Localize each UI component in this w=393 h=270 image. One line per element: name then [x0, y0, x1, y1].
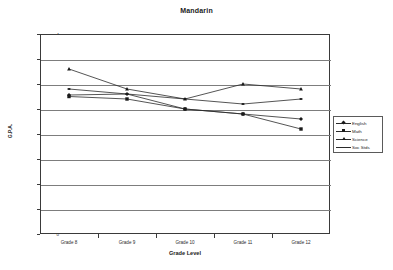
legend-marker-line-icon — [336, 143, 351, 151]
x-axis-tick-mark — [214, 234, 215, 238]
data-point — [299, 117, 303, 121]
data-point — [242, 103, 245, 105]
chart-title: Mandarin — [0, 7, 393, 14]
data-point — [299, 127, 302, 130]
legend-label: Science — [351, 137, 368, 142]
legend-label: Soc Stds — [351, 145, 370, 150]
y-axis-title: G.P.A. — [7, 111, 13, 151]
x-axis-tick-label: Grade 11 — [213, 240, 273, 245]
data-point — [67, 95, 70, 98]
x-axis-tick-label: Grade 9 — [97, 240, 157, 245]
data-point — [300, 98, 303, 100]
legend-marker-triangle-icon — [336, 135, 351, 143]
legend-item-soc-stds[interactable]: Soc Stds — [336, 143, 380, 151]
y-axis-tick-mark — [37, 234, 40, 235]
legend-item-math[interactable]: Math — [336, 127, 380, 135]
data-point — [67, 67, 71, 70]
series-soc-stds — [68, 88, 303, 105]
data-point — [241, 112, 244, 115]
data-point — [126, 93, 129, 95]
series-line — [69, 89, 301, 104]
legend-marker-diamond-icon — [336, 119, 351, 127]
x-axis-tick-label: Grade 12 — [271, 240, 331, 245]
x-axis-tick-label: Grade 10 — [155, 240, 215, 245]
x-axis-tick-label: Grade 8 — [39, 240, 99, 245]
legend-label: Math — [351, 129, 362, 134]
x-axis-tick-mark — [272, 234, 273, 238]
x-axis-title: Grade Level — [40, 250, 330, 256]
series-english — [67, 92, 303, 121]
legend-item-english[interactable]: English — [336, 119, 380, 127]
legend-label: English — [351, 121, 366, 126]
legend-marker-square-icon — [336, 127, 351, 135]
chart-container: Mandarin G.P.A. 00.511.522.533.54 Grade … — [0, 0, 393, 270]
data-point — [183, 107, 186, 110]
series-line — [69, 97, 301, 130]
x-axis-tick-mark — [156, 234, 157, 238]
data-point — [125, 97, 128, 100]
series-science — [67, 67, 303, 100]
x-axis-tick-mark — [98, 234, 99, 238]
data-point — [68, 88, 71, 90]
data-point — [184, 98, 187, 100]
legend-item-science[interactable]: Science — [336, 135, 380, 143]
legend: English Math Science Soc Stds — [333, 116, 383, 153]
series-lines — [40, 34, 330, 234]
